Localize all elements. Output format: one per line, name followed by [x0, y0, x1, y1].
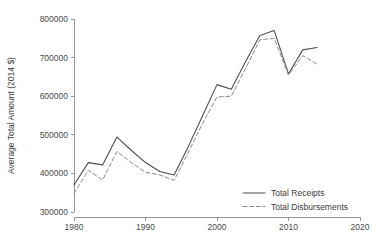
x-axis: 19801990200020102020: [65, 217, 370, 232]
chart-container: 300000400000500000600000700000800000 198…: [0, 0, 383, 251]
chart-legend: Total ReceiptsTotal Disbursements: [243, 188, 348, 212]
x-tick-label: 2000: [208, 222, 227, 232]
legend-label-total-disbursements: Total Disbursements: [271, 202, 348, 212]
x-tick-label: 1990: [136, 222, 155, 232]
legend-label-total-receipts: Total Receipts: [271, 188, 324, 198]
y-tick-label: 700000: [40, 53, 69, 63]
y-tick-label: 400000: [40, 168, 69, 178]
line-chart: 300000400000500000600000700000800000 198…: [0, 0, 383, 251]
y-tick-label: 300000: [40, 207, 69, 217]
x-tick-label: 2010: [279, 222, 298, 232]
y-axis-title: Average Total Amount (2014 $): [6, 57, 16, 174]
series-line-total-disbursements: [74, 38, 317, 193]
x-tick-label: 2020: [351, 222, 370, 232]
y-tick-label: 500000: [40, 130, 69, 140]
x-tick-label: 1980: [65, 222, 84, 232]
series-lines: [74, 31, 317, 194]
y-axis: 300000400000500000600000700000800000: [40, 14, 74, 217]
y-tick-label: 800000: [40, 14, 69, 24]
y-axis-title-text: Average Total Amount (2014 $): [6, 57, 16, 174]
y-tick-label: 600000: [40, 91, 69, 101]
